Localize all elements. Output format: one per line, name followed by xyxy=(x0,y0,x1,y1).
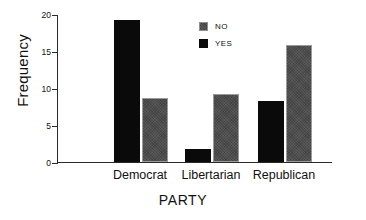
bar-groups xyxy=(58,15,332,162)
bar-no-democrat xyxy=(142,98,168,162)
plot-area: 05101520 xyxy=(57,15,332,163)
bar-yes-republican xyxy=(258,101,284,162)
bar-group xyxy=(258,15,312,162)
gray-swatch-icon xyxy=(199,22,208,31)
y-tick-label: 10 xyxy=(42,84,51,94)
bar-yes-libertarian xyxy=(185,149,211,162)
y-tick-label: 15 xyxy=(42,47,51,57)
black-swatch-icon xyxy=(199,39,208,48)
bar-no-republican xyxy=(286,45,312,162)
bar-group xyxy=(114,15,168,162)
x-axis-title: PARTY xyxy=(0,192,366,208)
x-category-label: Republican xyxy=(253,168,316,182)
bar-no-libertarian xyxy=(213,94,239,162)
x-category-label: Democrat xyxy=(113,168,167,182)
y-tick-label: 20 xyxy=(42,10,51,20)
legend-label-no: NO xyxy=(215,22,228,31)
y-tick-mark xyxy=(52,163,58,164)
x-axis-line xyxy=(57,162,332,163)
legend-item-no: NO xyxy=(199,19,232,33)
x-category-label: Libertarian xyxy=(181,168,240,182)
legend-item-yes: YES xyxy=(199,36,232,50)
y-tick-label: 5 xyxy=(46,121,51,131)
y-axis-title: Frequency xyxy=(14,16,31,126)
y-tick-label: 0 xyxy=(46,158,51,168)
bar-chart: Frequency 05101520 DemocratLibertarianRe… xyxy=(0,0,366,220)
bar-yes-democrat xyxy=(114,20,140,162)
legend: NO YES xyxy=(199,19,232,53)
legend-label-yes: YES xyxy=(215,39,232,48)
